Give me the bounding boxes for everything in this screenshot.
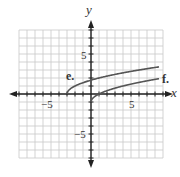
y-axis-arrow-down-icon — [88, 160, 94, 168]
curve-label-e: e. — [66, 70, 74, 82]
curve-label-f: f. — [162, 73, 169, 85]
y-axis-label: y — [86, 3, 92, 16]
x-tick-label-neg5: −5 — [41, 99, 53, 110]
x-axis-arrow-left-icon — [9, 91, 17, 97]
y-tick-label-neg5: −5 — [74, 129, 86, 140]
x-tick-label-5: 5 — [129, 99, 135, 110]
curve-f — [91, 79, 159, 102]
y-axis-arrow-up-icon — [88, 20, 94, 28]
y-tick-label-5: 5 — [81, 50, 87, 61]
x-axis-label: x — [171, 86, 177, 99]
graph-canvas — [0, 0, 180, 177]
